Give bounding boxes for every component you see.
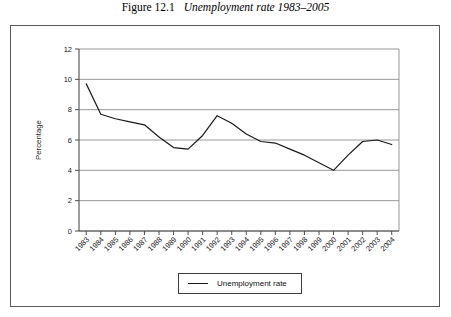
x-tick-label: 1995: [248, 235, 266, 253]
x-tick-label: 1985: [102, 235, 120, 253]
x-tick-label: 1999: [306, 235, 324, 253]
x-tick-label: 1996: [262, 235, 280, 253]
y-axis-title: Percentage: [34, 120, 43, 160]
y-tick-label: 12: [64, 45, 72, 54]
legend-label: Unemployment rate: [217, 279, 287, 288]
y-tick-label: 2: [68, 196, 72, 205]
legend: Unemployment rate: [178, 273, 302, 294]
x-axis: 1983198419851986198719881989199019911992…: [73, 231, 399, 253]
x-tick-label: 2004: [378, 235, 396, 253]
y-tick-label: 4: [68, 166, 72, 175]
y-axis: 024681012: [64, 45, 79, 236]
figure-frame: 024681012 198319841985198619871988198919…: [10, 25, 440, 307]
y-axis-title-text: Percentage: [34, 120, 43, 160]
y-tick-label: 0: [68, 227, 72, 236]
line-chart: 024681012 198319841985198619871988198919…: [11, 26, 441, 308]
y-tick-label: 8: [68, 105, 72, 114]
figure-number: Figure 12.1: [122, 1, 175, 13]
x-tick-label: 1987: [131, 235, 149, 253]
x-tick-label: 1992: [204, 235, 222, 253]
figure-title: Unemployment rate 1983–2005: [184, 1, 330, 13]
x-tick-label: 1989: [160, 235, 178, 253]
x-tick-label: 1984: [88, 235, 106, 253]
x-tick-label: 1988: [146, 235, 164, 253]
x-tick-label: 1986: [117, 235, 135, 253]
gridlines: [79, 49, 399, 231]
x-tick-label: 2002: [349, 235, 367, 253]
x-tick-label: 2001: [335, 235, 353, 253]
y-tick-label: 6: [68, 136, 72, 145]
x-tick-label: 1983: [73, 235, 91, 253]
y-tick-label: 10: [64, 75, 72, 84]
series-line-unemployment-rate: [86, 84, 391, 170]
x-tick-label: 1991: [189, 235, 207, 253]
x-tick-label: 1990: [175, 235, 193, 253]
x-tick-label: 1993: [218, 235, 236, 253]
x-tick-label: 1998: [291, 235, 309, 253]
x-tick-label: 2003: [364, 235, 382, 253]
figure-caption: Figure 12.1Unemployment rate 1983–2005: [0, 1, 451, 13]
data-series: [86, 84, 391, 170]
x-tick-label: 1994: [233, 235, 251, 253]
x-tick-label: 2000: [320, 235, 338, 253]
chart-svg: 024681012 198319841985198619871988198919…: [11, 26, 441, 308]
x-tick-label: 1997: [277, 235, 295, 253]
legend-line-swatch: [188, 283, 208, 284]
